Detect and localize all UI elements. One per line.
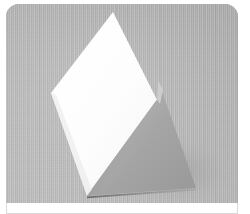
photo-frame[interactable] (6, 4, 238, 203)
caption-band (6, 203, 238, 214)
gray-studio-backdrop (6, 4, 238, 203)
photo-thumbnail-card[interactable] (0, 0, 250, 214)
